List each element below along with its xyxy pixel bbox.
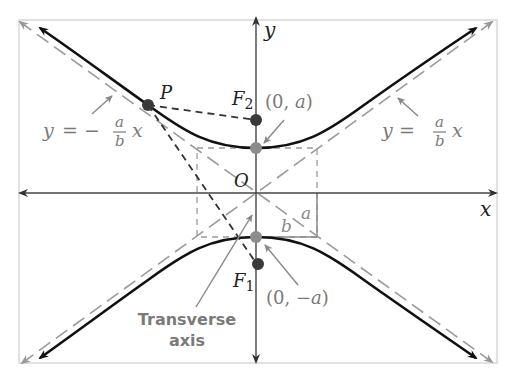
origin-label: O bbox=[234, 170, 249, 191]
transverse-axis-label-line1: Transverse bbox=[138, 310, 236, 329]
svg-text:b: b bbox=[435, 132, 445, 150]
focus-f2-label: F2 bbox=[231, 88, 253, 112]
svg-text:x: x bbox=[132, 119, 143, 141]
svg-text:a: a bbox=[115, 113, 124, 131]
point-p-label: P bbox=[159, 82, 173, 103]
vertex-bottom bbox=[250, 231, 262, 243]
focus-f2 bbox=[250, 114, 262, 126]
x-axis-label: x bbox=[480, 197, 491, 221]
focus-f1-label: F1 bbox=[232, 270, 254, 294]
transverse-axis-label-line2: axis bbox=[169, 331, 205, 350]
pointer-left-asymptote bbox=[92, 96, 112, 114]
hyperbola-lower-left bbox=[40, 237, 256, 358]
vertex-bottom-label: (0, −a) bbox=[266, 287, 329, 308]
svg-text:=: = bbox=[399, 119, 415, 141]
diagram-frame bbox=[19, 20, 497, 363]
pointer-bottom-vertex bbox=[265, 245, 298, 285]
pointer-right-asymptote bbox=[398, 98, 418, 116]
box-label-a: a bbox=[301, 203, 311, 223]
vertex-top-label: (0, a) bbox=[265, 91, 313, 112]
svg-text:= −: = − bbox=[62, 119, 100, 141]
point-p bbox=[142, 99, 154, 111]
hyperbola-diagram: y x O P F2 F1 (0, a) (0, −a) y = − a b x… bbox=[0, 0, 513, 368]
y-axis-label: y bbox=[263, 18, 276, 42]
vertex-top bbox=[250, 142, 262, 154]
svg-text:y: y bbox=[381, 119, 393, 141]
svg-text:x: x bbox=[452, 119, 463, 141]
svg-text:y: y bbox=[42, 119, 54, 141]
asymptote-negative-label: y = − a b x bbox=[42, 113, 143, 150]
asymptote-positive-start bbox=[22, 193, 256, 363]
pointer-top-vertex bbox=[264, 120, 284, 143]
pointer-transverse-axis bbox=[196, 215, 252, 307]
box-label-b: b bbox=[281, 216, 292, 236]
focus-f1 bbox=[252, 258, 264, 270]
asymptote-positive-label: y = a b x bbox=[381, 113, 463, 150]
svg-text:a: a bbox=[435, 113, 444, 131]
svg-text:b: b bbox=[115, 132, 125, 150]
